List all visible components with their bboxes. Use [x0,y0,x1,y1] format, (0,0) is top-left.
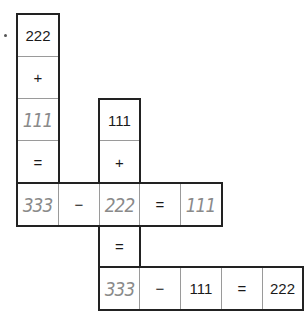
cell-h5-answer[interactable]: 111 [180,183,222,226]
cell-b1-answer[interactable]: 333 [99,267,140,310]
cell-a3-answer[interactable]: 111 [17,98,59,141]
cell-value: 111 [108,112,131,129]
operator-plus: + [34,69,43,86]
cell-h1-answer[interactable]: 333 [17,183,59,226]
operator-equals: = [238,280,247,297]
handwritten-answer: 111 [186,193,216,217]
operator-minus: − [75,196,84,213]
cell-c1: 111 [99,99,140,141]
operator-equals: = [34,154,43,171]
operator-equals: = [156,196,165,213]
cell-a1: 222 [17,14,59,57]
handwritten-answer: 333 [105,277,135,301]
cell-b3: 111 [180,267,222,310]
cell-value: 111 [190,280,213,297]
cell-b4: = [221,267,263,310]
cell-h4: = [139,183,181,226]
cell-b2: − [139,267,181,310]
operator-plus: + [115,154,124,171]
cell-b5: 222 [262,267,303,310]
cell-h2: − [58,183,100,226]
handwritten-answer: 333 [23,193,53,217]
cell-value: 222 [25,27,50,44]
cell-c4: = [99,225,140,268]
bullet-dot [4,34,7,37]
cell-c2: + [99,140,140,184]
handwritten-answer: 111 [23,108,53,132]
cell-a2: + [17,56,59,99]
cell-value: 222 [270,280,295,297]
operator-equals: = [115,238,124,255]
operator-minus: − [156,280,165,297]
cell-a4: = [17,140,59,184]
handwritten-answer: 222 [105,193,135,217]
cell-h3-answer[interactable]: 222 [99,183,140,226]
